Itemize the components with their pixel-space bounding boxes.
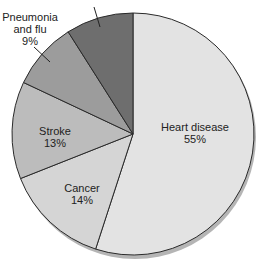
label-heart-disease-name: Heart disease (161, 121, 229, 133)
label-pneumonia-line3: 9% (2, 35, 58, 47)
label-cancer: Cancer 14% (64, 182, 99, 206)
label-cancer-value: 14% (64, 194, 99, 206)
label-stroke: Stroke 13% (39, 125, 71, 149)
label-heart-disease: Heart disease 55% (161, 121, 229, 145)
label-pneumonia-line1: Pneumonia (2, 11, 58, 23)
label-pneumonia: Pneumonia and flu 9% (2, 11, 58, 47)
top-slice-label-clipped (123, 0, 126, 2)
label-heart-disease-value: 55% (161, 133, 229, 145)
label-stroke-value: 13% (39, 137, 71, 149)
label-stroke-name: Stroke (39, 125, 71, 137)
label-pneumonia-line2: and flu (2, 23, 58, 35)
label-cancer-name: Cancer (64, 182, 99, 194)
